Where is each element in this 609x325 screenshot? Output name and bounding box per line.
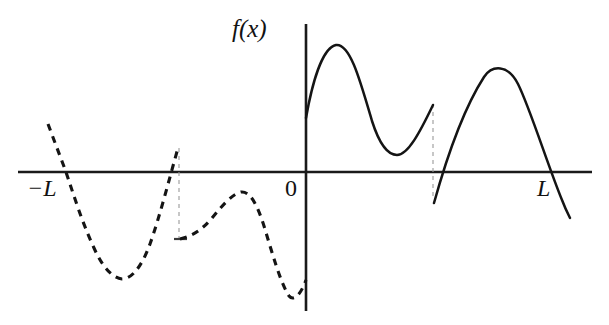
x-axis-label-negative-L: −L — [27, 176, 57, 200]
graph-canvas — [0, 0, 609, 325]
function-graph-figure: f(x) −L 0 L — [0, 0, 609, 325]
x-axis-label-L: L — [537, 176, 550, 200]
dashed-branch-1-path — [48, 124, 178, 279]
solid-branch-1-path — [306, 45, 433, 155]
dashed-branch-2-path — [180, 192, 306, 298]
origin-label: 0 — [285, 176, 297, 200]
function-label: f(x) — [232, 16, 267, 41]
